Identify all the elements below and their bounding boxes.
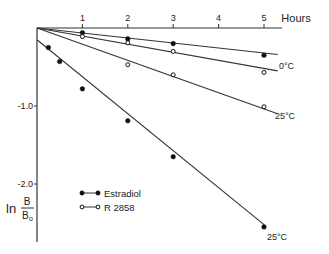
x-tick-label: 4 xyxy=(216,13,221,23)
fit-line xyxy=(37,28,278,71)
filled-data-point xyxy=(262,225,267,230)
x-axis-label: Hours xyxy=(281,12,311,24)
y-axis-label-subscript: o xyxy=(29,215,33,222)
open-data-point xyxy=(80,35,84,39)
legend-marker xyxy=(80,205,84,209)
y-axis-label-prefix: ln xyxy=(6,201,16,216)
legend-marker xyxy=(80,191,84,195)
annotation-0c: 0°C xyxy=(279,61,295,71)
filled-data-point xyxy=(171,154,176,159)
y-tick-label: -2.0 xyxy=(17,179,33,189)
fit-lines xyxy=(37,28,278,225)
open-data-point xyxy=(262,70,266,74)
filled-data-point xyxy=(80,87,85,92)
y-axis-label-numerator: B xyxy=(24,196,31,207)
open-data-point xyxy=(171,73,175,77)
legend-label: R 2858 xyxy=(104,202,135,213)
chart: 12345Hours-1.0-2.0lnBBo 0°C25°C25°C Estr… xyxy=(0,0,329,254)
x-tick-label: 2 xyxy=(125,13,130,23)
x-tick-label: 5 xyxy=(261,13,266,23)
filled-data-point xyxy=(46,45,51,50)
open-data-point xyxy=(126,63,130,67)
fit-line xyxy=(37,40,264,225)
legend: EstradiolR 2858 xyxy=(80,188,141,213)
axes: 12345Hours-1.0-2.0lnBBo xyxy=(6,12,311,242)
filled-data-point xyxy=(57,59,62,64)
legend-marker xyxy=(96,191,100,195)
x-tick-label: 3 xyxy=(171,13,176,23)
legend-label: Estradiol xyxy=(104,188,141,199)
filled-data-point xyxy=(171,41,176,46)
labels: 0°C25°C25°C xyxy=(267,61,296,242)
annotation-25c-estradiol: 25°C xyxy=(267,232,288,242)
filled-data-point xyxy=(126,119,131,124)
y-axis-label-denominator: B xyxy=(22,210,29,221)
legend-marker xyxy=(96,205,100,209)
x-tick-label: 1 xyxy=(80,13,85,23)
annotation-25c-r2858: 25°C xyxy=(275,111,296,121)
y-tick-label: -1.0 xyxy=(17,101,33,111)
filled-data-point xyxy=(262,53,267,58)
open-data-point xyxy=(171,49,175,53)
open-data-point xyxy=(262,105,266,109)
open-data-point xyxy=(126,41,130,45)
